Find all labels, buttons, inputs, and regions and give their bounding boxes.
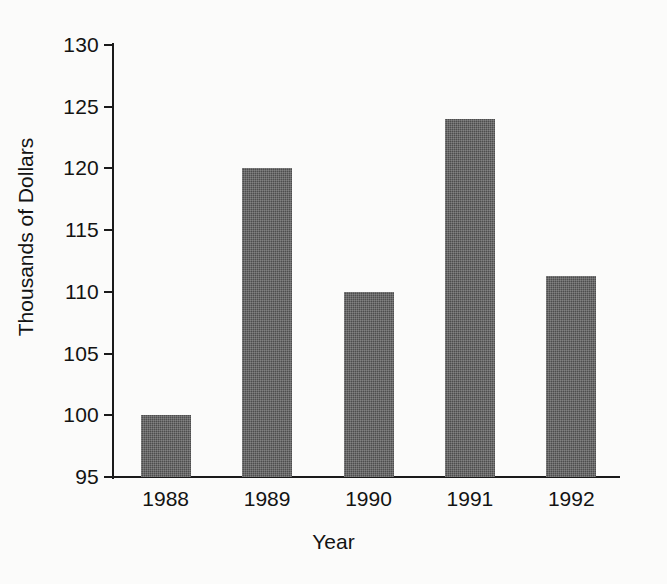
bar bbox=[242, 168, 292, 477]
x-axis-title: Year bbox=[0, 530, 667, 554]
bar-chart-figure: Thousands of Dollars 9510010511011512012… bbox=[0, 0, 667, 584]
y-axis-tick-label: 95 bbox=[39, 465, 99, 489]
y-axis-tick-label: 110 bbox=[39, 280, 99, 304]
bar bbox=[445, 119, 495, 477]
bar bbox=[141, 415, 191, 477]
y-axis-title: Thousands of Dollars bbox=[14, 72, 38, 402]
y-axis-tick-mark bbox=[104, 229, 113, 231]
y-axis-tick-label: 125 bbox=[39, 95, 99, 119]
y-axis-tick-mark bbox=[104, 44, 113, 46]
y-axis-tick-label: 130 bbox=[39, 33, 99, 57]
plot-area bbox=[113, 45, 620, 477]
y-axis-tick-mark bbox=[104, 414, 113, 416]
y-axis-tick-mark bbox=[104, 476, 113, 478]
y-axis-tick-label: 115 bbox=[39, 218, 99, 242]
y-axis-tick-mark bbox=[104, 167, 113, 169]
y-axis-tick-mark bbox=[104, 291, 113, 293]
y-axis-tick-label: 120 bbox=[39, 156, 99, 180]
y-axis-tick-mark bbox=[104, 106, 113, 108]
bar bbox=[546, 276, 596, 477]
y-axis-tick-mark bbox=[104, 353, 113, 355]
y-axis-tick-label: 105 bbox=[39, 342, 99, 366]
bar bbox=[344, 292, 394, 477]
y-axis-tick-label: 100 bbox=[39, 403, 99, 427]
x-axis-tick-label: 1992 bbox=[511, 487, 631, 511]
